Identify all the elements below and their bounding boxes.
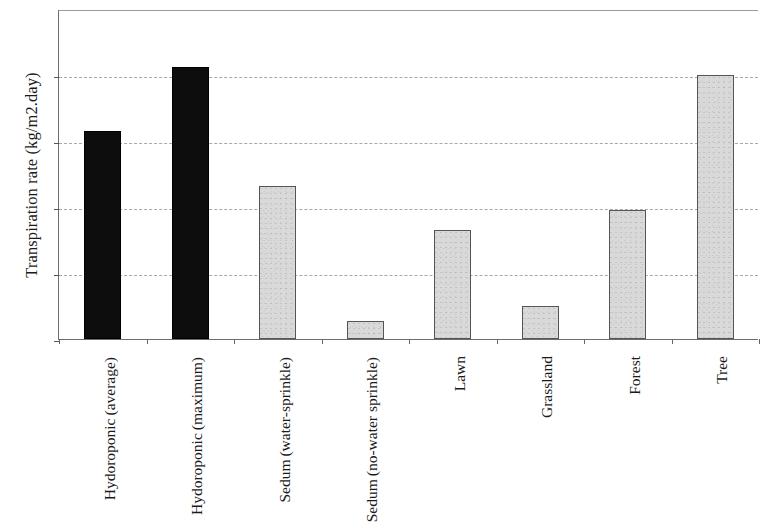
x-axis-tick — [147, 339, 148, 344]
x-axis-tick — [672, 339, 673, 344]
x-axis-tick — [59, 339, 60, 344]
bar — [522, 306, 559, 339]
x-axis-category-label-line: Lawn — [452, 356, 468, 391]
x-axis-category-label-line: (water-sprinkle) — [277, 357, 293, 457]
x-axis-category-label-line: Grassland — [539, 356, 555, 418]
x-axis-tick — [234, 339, 235, 344]
x-axis-category-label-line: Tree — [714, 356, 730, 384]
x-axis-category-label-line: (maximum) — [189, 357, 205, 430]
x-axis-category-label-line: Forest — [627, 356, 643, 395]
x-axis-category-label-line: (no-water sprinkle) — [364, 357, 380, 476]
bar — [434, 230, 471, 339]
bar — [347, 321, 384, 339]
bar — [609, 210, 646, 339]
plot-area — [58, 10, 758, 340]
gridline — [59, 143, 758, 144]
x-axis-category-label-line: Sedum — [364, 479, 380, 522]
x-axis-tick — [497, 339, 498, 344]
x-axis-tick — [409, 339, 410, 344]
bar — [697, 75, 734, 339]
gridline — [59, 77, 758, 78]
bar — [84, 131, 121, 339]
x-axis-category-label-line: Hydoroponic — [102, 419, 118, 501]
y-axis-title: Transpiration rate (kg/m2.day) — [22, 25, 42, 325]
x-axis-category-label-line: Hydoroponic — [189, 433, 205, 515]
x-axis-tick — [322, 339, 323, 344]
bar — [259, 186, 296, 339]
y-axis-tick — [54, 275, 59, 276]
gridline — [59, 275, 758, 276]
y-axis-tick — [54, 143, 59, 144]
y-axis-tick — [54, 77, 59, 78]
x-axis-category-label-line: Sedum — [277, 460, 293, 503]
x-axis-tick — [584, 339, 585, 344]
x-axis-category-label-line: (average) — [102, 357, 118, 416]
y-axis-tick — [54, 209, 59, 210]
gridline — [59, 209, 758, 210]
bar — [172, 67, 209, 339]
